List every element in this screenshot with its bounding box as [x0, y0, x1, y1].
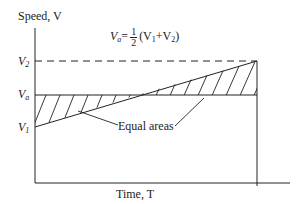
x-axis-label: Time, T — [116, 188, 154, 200]
leader-left — [78, 111, 118, 125]
v2-label: V2 — [18, 55, 29, 69]
speed-time-diagram: Speed, V Va=12(V1+V2) V2 Va V1 Equal are… — [0, 0, 308, 204]
hatch-right — [140, 55, 272, 100]
fraction: 12 — [130, 27, 137, 48]
equal-areas-annotation: Equal areas — [118, 120, 174, 132]
speed-ramp-line — [35, 61, 257, 127]
va-label: Va — [18, 88, 29, 102]
leader-right — [175, 98, 204, 126]
v1-label: V1 — [18, 121, 29, 135]
y-axis-label: Speed, V — [18, 10, 62, 22]
formula: Va=12(V1+V2) — [110, 27, 179, 48]
